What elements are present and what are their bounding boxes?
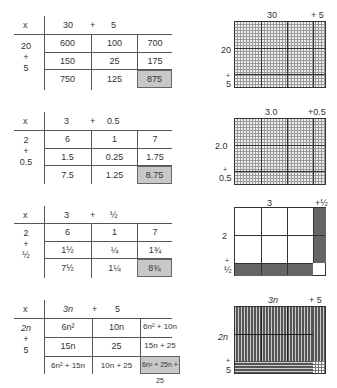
grid-side-a: 2 — [222, 231, 227, 241]
row-a: 2 — [8, 135, 44, 146]
grid-side-a: 2.0 — [215, 141, 228, 151]
cell: 7 — [138, 134, 172, 144]
row-plus: + — [8, 239, 44, 250]
cell: 125 — [92, 74, 137, 84]
col-plus: + — [90, 116, 95, 126]
op-symbol: x — [23, 304, 28, 314]
cell: 6n² + 15n — [44, 361, 92, 370]
cell: 7½ — [44, 263, 91, 273]
grid-side-b: 0.5 — [219, 173, 232, 183]
cell: 1½ — [44, 245, 91, 255]
col-b: 5 — [115, 304, 120, 314]
area-model-grid-4: 3n + 5 2n + 5 — [225, 295, 337, 377]
grid-side-b: ½ — [224, 265, 232, 275]
col-a: 3n — [63, 304, 73, 314]
cell: 1 — [92, 227, 137, 237]
col-b: 5 — [111, 20, 116, 30]
grid-top-b: +0.5 — [308, 107, 326, 117]
cell: 150 — [44, 56, 91, 66]
op-symbol: x — [23, 20, 28, 30]
cell: 10n — [93, 322, 140, 332]
col-b: 0.5 — [107, 116, 120, 126]
five-column-strip — [313, 307, 325, 361]
grid-side-plus: + — [226, 72, 230, 79]
cell: 1 — [92, 134, 137, 144]
col-plus: + — [92, 304, 97, 314]
grid-side-plus: + — [225, 257, 229, 264]
op-symbol: x — [23, 210, 28, 220]
grid-top-a: 30 — [267, 10, 277, 20]
grid-top-b: + 5 — [309, 295, 322, 305]
cell: 6 — [44, 227, 91, 237]
col-a: 30 — [63, 20, 73, 30]
multiplication-table-2: x 3 + 0.5 2 + 0.5 6 1 7 1.5 0.25 1.75 7.… — [8, 112, 172, 184]
multiplication-table-1: x 30 + 5 20 + 5 600 100 700 150 25 175 7… — [8, 16, 172, 90]
cell: 1.75 — [138, 152, 172, 162]
grid-top-a: 3.0 — [265, 107, 278, 117]
col-a: 3 — [64, 116, 69, 126]
cell: 0.25 — [92, 152, 137, 162]
cell: 1.5 — [44, 152, 91, 162]
cell: 25 — [92, 56, 137, 66]
grand-total-cell: 875 — [137, 70, 172, 88]
cell: 700 — [138, 38, 172, 48]
grid-side-plus: + — [223, 166, 227, 173]
row-b: 0.5 — [8, 157, 44, 168]
cell: 6n² — [44, 322, 92, 332]
cell: 175 — [138, 56, 172, 66]
half-row-strip — [235, 263, 313, 276]
col-a: 3 — [64, 210, 69, 220]
cell: 7.5 — [44, 170, 91, 180]
cell: 25 — [93, 341, 140, 351]
multiplication-table-4: x 3n + 5 2n + 5 6n² 10n 6n² + 10n 15n 25… — [8, 300, 172, 374]
grand-total-cell: 8¾ — [137, 259, 172, 277]
grid-top-a: 3n — [268, 295, 278, 305]
area-model-grid-2: 3.0 +0.5 2.0 + 0.5 — [225, 107, 337, 189]
area-model-grid-1: 30 + 5 20 + 5 — [225, 10, 337, 92]
row-b: ½ — [8, 250, 44, 261]
row-b: 5 — [8, 345, 44, 356]
five-row-strip — [235, 361, 313, 373]
grid-side-plus: + — [226, 357, 230, 364]
grand-total-cell: 6n² + 25n + 25 — [140, 356, 180, 374]
cell: ¼ — [92, 245, 137, 255]
cell: 6 — [44, 134, 91, 144]
area-model-grid-3: 3 +½ 2 + ½ — [225, 198, 337, 280]
cell: 600 — [44, 38, 91, 48]
row-b: 5 — [8, 63, 44, 74]
corner-unit-square — [313, 361, 325, 373]
col-plus: + — [90, 210, 95, 220]
row-a: 2 — [8, 228, 44, 239]
cell: 10n + 25 — [93, 361, 140, 370]
cell: 1¾ — [138, 245, 172, 255]
grid-side-a: 20 — [221, 45, 231, 55]
cell: 100 — [92, 38, 137, 48]
row-plus: + — [8, 52, 44, 63]
row-plus: + — [8, 146, 44, 157]
grand-total-cell: 8.75 — [137, 166, 172, 184]
grid-side-a: 2n — [218, 332, 228, 342]
row-a: 2n — [8, 323, 44, 334]
row-plus: + — [8, 334, 44, 345]
multiplication-table-3: x 3 + ½ 2 + ½ 6 1 7 1½ ¼ 1¾ 7½ 1¼ 8¾ — [8, 206, 172, 278]
grid-top-b: + 5 — [311, 10, 324, 20]
op-symbol: x — [23, 116, 28, 126]
cell: 15n + 25 — [140, 341, 180, 350]
cell: 1¼ — [92, 263, 137, 273]
cell: 6n² + 10n — [140, 322, 180, 331]
cell: 7 — [138, 227, 172, 237]
cell: 750 — [44, 74, 91, 84]
cell: 1.25 — [92, 170, 137, 180]
cell: 15n — [44, 341, 92, 351]
grid-side-b: 5 — [226, 365, 231, 375]
grid-side-b: 5 — [226, 79, 231, 89]
col-plus: + — [90, 20, 95, 30]
col-b: ½ — [110, 210, 118, 220]
caption-cutoff — [0, 380, 337, 388]
row-a: 20 — [8, 41, 44, 52]
